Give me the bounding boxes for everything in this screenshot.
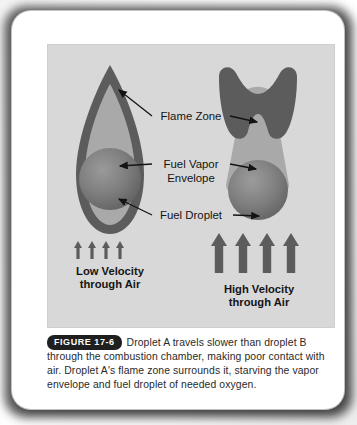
high-velocity-label-line1: High Velocity bbox=[224, 283, 295, 295]
arrow-up-small bbox=[88, 241, 96, 259]
arrow-up-small bbox=[102, 241, 110, 259]
high-velocity-label-line2: through Air bbox=[229, 296, 290, 308]
arrow-up-large bbox=[283, 233, 299, 273]
fuel-vapor-label-line2: Envelope bbox=[167, 172, 215, 184]
arrow-up-small bbox=[74, 241, 82, 259]
combustion-diagram-svg: Low Velocity through Air bbox=[47, 44, 335, 328]
figure-caption: FIGURE 17-6Droplet A travels slower than… bbox=[47, 335, 339, 392]
arrow-up-large bbox=[211, 233, 227, 273]
low-velocity-label-line1: Low Velocity bbox=[76, 265, 145, 277]
left-droplet-group: Low Velocity through Air bbox=[74, 65, 145, 290]
left-fuel-droplet bbox=[79, 148, 141, 210]
figure-number-badge: FIGURE 17-6 bbox=[47, 335, 122, 350]
arrow-up-large bbox=[259, 233, 275, 273]
left-velocity-arrows bbox=[74, 241, 124, 259]
right-droplet-group: High Velocity through Air bbox=[211, 67, 299, 308]
low-velocity-label-line2: through Air bbox=[80, 278, 141, 290]
arrow-up-small bbox=[116, 241, 124, 259]
diagram-panel: Low Velocity through Air bbox=[47, 44, 335, 328]
arrow-up-large bbox=[235, 233, 251, 273]
flame-zone-label: Flame Zone bbox=[161, 110, 222, 122]
right-velocity-arrows bbox=[211, 233, 299, 273]
figure-card: Low Velocity through Air bbox=[12, 11, 344, 409]
figure-page: Low Velocity through Air bbox=[0, 0, 357, 425]
fuel-droplet-label: Fuel Droplet bbox=[160, 209, 223, 221]
fuel-vapor-label-line1: Fuel Vapor bbox=[164, 158, 219, 170]
caption-block: FIGURE 17-6Droplet A travels slower than… bbox=[47, 335, 339, 392]
right-fuel-droplet bbox=[228, 160, 288, 220]
